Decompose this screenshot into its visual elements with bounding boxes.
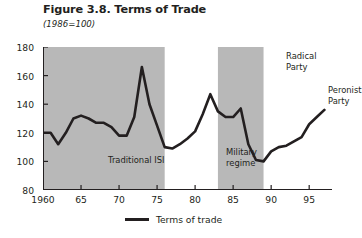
figure-subtitle: (1986=100)	[43, 19, 95, 29]
x-tick-label: 85	[227, 194, 239, 205]
y-axis-labels: 80100120140160180	[0, 40, 40, 200]
x-tick-label: 1960	[31, 194, 54, 205]
annotation-peronist-party: Peronist Party	[328, 85, 362, 106]
x-tick-label: 65	[75, 194, 87, 205]
x-tick-label: 90	[265, 194, 277, 205]
x-tick-label: 95	[303, 194, 315, 205]
y-tick-label: 140	[16, 99, 34, 110]
plot-area: Traditional ISIMilitary regimeRadical Pa…	[43, 47, 332, 190]
legend-line-swatch	[125, 218, 149, 220]
annotation-traditional-isi: Traditional ISI	[108, 155, 165, 166]
annotation-radical-party: Radical Party	[286, 51, 316, 72]
x-tick-label: 80	[189, 194, 201, 205]
annotation-military-regime: Military regime	[226, 147, 257, 168]
chart-legend: Terms of trade	[0, 214, 347, 225]
figure-title: Figure 3.8. Terms of Trade	[43, 3, 206, 16]
y-tick-label: 100	[16, 156, 34, 167]
x-tick-label: 70	[113, 194, 125, 205]
x-tick-label: 75	[151, 194, 163, 205]
y-tick-label: 160	[16, 70, 34, 81]
x-axis-labels: 196065707580859095	[0, 190, 347, 210]
y-tick-label: 180	[16, 42, 34, 53]
legend-label: Terms of trade	[156, 214, 222, 225]
y-tick-label: 120	[16, 127, 34, 138]
